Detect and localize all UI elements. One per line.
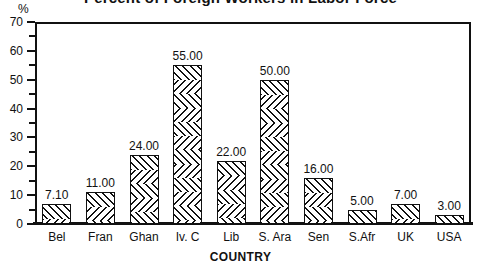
- bar-value-label: 7.00: [380, 189, 432, 201]
- bar-hatch-b: [261, 81, 288, 223]
- bar: [348, 210, 377, 224]
- y-axis-unit-label: %: [18, 2, 29, 16]
- y-tick-minor: [29, 151, 35, 153]
- bar-value-label: 50.00: [249, 65, 301, 77]
- bar-value-label: 22.00: [205, 146, 257, 158]
- y-tick-label: 10: [0, 189, 23, 201]
- chart-title: Percent of Foreign Workers in Labor Forc…: [0, 0, 481, 6]
- bar-hatch-b: [349, 211, 376, 223]
- y-tick-major: [27, 21, 35, 23]
- bar-value-label: 55.00: [162, 50, 214, 62]
- y-tick-major: [27, 223, 35, 225]
- y-tick-minor: [29, 93, 35, 95]
- y-tick-label: 20: [0, 160, 23, 172]
- bar-hatch-b: [43, 205, 70, 223]
- bar-hatch-b: [131, 156, 158, 223]
- y-tick-label: 40: [0, 103, 23, 115]
- y-tick-label: 70: [0, 16, 23, 28]
- x-tick-label: USA: [423, 231, 475, 243]
- y-tick-label: 60: [0, 45, 23, 57]
- bar: [42, 204, 71, 224]
- x-axis-title: COUNTRY: [0, 250, 481, 264]
- y-tick-major: [27, 136, 35, 138]
- y-tick-major: [27, 50, 35, 52]
- y-tick-minor: [29, 209, 35, 211]
- y-tick-minor: [29, 180, 35, 182]
- y-tick-minor: [29, 35, 35, 37]
- bar: [130, 155, 159, 224]
- y-tick-minor: [29, 122, 35, 124]
- bar-hatch-b: [392, 205, 419, 223]
- bar-hatch-b: [305, 179, 332, 223]
- bar-hatch-b: [436, 216, 463, 223]
- bar: [304, 178, 333, 224]
- bar-hatch-b: [218, 162, 245, 223]
- y-tick-label: 0: [0, 218, 23, 230]
- bar: [391, 204, 420, 224]
- y-tick-label: 50: [0, 74, 23, 86]
- y-tick-major: [27, 165, 35, 167]
- y-tick-major: [27, 108, 35, 110]
- bar-value-label: 7.10: [31, 189, 83, 201]
- bar: [86, 192, 115, 224]
- bar-value-label: 11.00: [74, 177, 126, 189]
- bar: [260, 80, 289, 224]
- bar-value-label: 16.00: [292, 163, 344, 175]
- bar: [217, 161, 246, 224]
- bar: [173, 65, 202, 224]
- y-tick-label: 30: [0, 131, 23, 143]
- bar-hatch-b: [87, 193, 114, 223]
- y-tick-minor: [29, 64, 35, 66]
- y-tick-major: [27, 79, 35, 81]
- bar-value-label: 24.00: [118, 140, 170, 152]
- bar-hatch-b: [174, 66, 201, 223]
- bar: [435, 215, 464, 224]
- bar-chart: Percent of Foreign Workers in Labor Forc…: [0, 0, 481, 266]
- bar-value-label: 3.00: [423, 200, 475, 212]
